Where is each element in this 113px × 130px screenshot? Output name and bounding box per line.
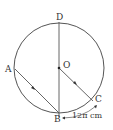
label-c: C	[95, 94, 102, 104]
chord-ab	[15, 69, 59, 113]
circle-diagram: D O A B C 12π cm	[0, 0, 113, 130]
label-o: O	[63, 60, 70, 70]
center-dot	[58, 67, 61, 70]
arrowhead-b-icon	[62, 117, 65, 120]
label-b: B	[54, 114, 61, 124]
arc-length-label: 12π cm	[72, 111, 102, 120]
label-a: A	[4, 64, 12, 74]
label-d: D	[56, 12, 63, 22]
arrowhead-c-icon	[94, 105, 97, 109]
